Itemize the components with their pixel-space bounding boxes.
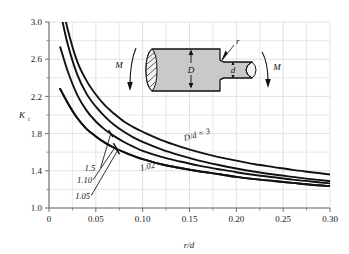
- chart-background: [0, 0, 349, 254]
- inset-label-D: D: [187, 65, 195, 75]
- y-tick-label: 1.4: [31, 166, 43, 176]
- x-tick-label: 0.10: [135, 214, 151, 224]
- y-tick-label: 2.2: [31, 92, 42, 102]
- curve-label-1-05: 1.05: [75, 191, 90, 201]
- y-tick-label: 1.0: [31, 203, 43, 213]
- inset-label-moment-left: M: [114, 60, 123, 70]
- y-axis-title: K: [18, 110, 26, 120]
- x-tick-label: 0.20: [228, 214, 244, 224]
- inset-label-moment-right: M: [272, 62, 281, 72]
- chart-canvas: 00.050.100.150.200.250.301.01.41.82.22.6…: [0, 0, 349, 254]
- curve-label-1-5: 1.5: [85, 163, 96, 173]
- x-tick-label: 0.15: [182, 214, 198, 224]
- stress-concentration-chart-figure: 00.050.100.150.200.250.301.01.41.82.22.6…: [0, 0, 349, 254]
- inset-label-d: d: [231, 65, 236, 75]
- y-tick-label: 1.8: [31, 129, 43, 139]
- x-axis-title: r/d: [184, 240, 195, 250]
- x-tick-label: 0.25: [275, 214, 291, 224]
- x-tick-label: 0.05: [88, 214, 104, 224]
- x-tick-label: 0.30: [322, 214, 338, 224]
- y-tick-label: 2.6: [31, 54, 43, 64]
- y-tick-label: 3.0: [31, 17, 43, 27]
- x-tick-label: 0: [47, 214, 52, 224]
- curve-label-1-10: 1.10: [77, 175, 93, 185]
- inset-label-r: r: [236, 36, 240, 46]
